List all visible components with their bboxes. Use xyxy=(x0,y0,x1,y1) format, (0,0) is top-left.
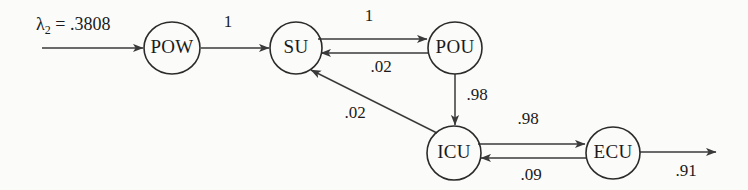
node-icu[interactable]: ICU xyxy=(427,126,481,180)
edge-label-ecu-to-icu: .09 xyxy=(520,165,541,184)
edge-icu-to-su xyxy=(311,70,437,133)
node-icu-label: ICU xyxy=(437,141,471,162)
edge-label-pow-to-su: 1 xyxy=(224,12,233,31)
node-ecu-label: ECU xyxy=(594,141,633,162)
node-pou[interactable]: POU xyxy=(428,22,482,74)
edge-label-icu-to-su: .02 xyxy=(344,103,365,122)
svg-text:λ2 = .3808: λ2 = .3808 xyxy=(36,14,110,37)
edge-label-pou-to-icu: .98 xyxy=(466,85,487,104)
lambda-symbol: λ xyxy=(36,14,45,34)
node-pow-label: POW xyxy=(150,36,193,57)
node-ecu[interactable]: ECU xyxy=(586,127,640,179)
node-su[interactable]: SU xyxy=(270,22,322,74)
node-su-label: SU xyxy=(284,36,309,57)
node-pow[interactable]: POW xyxy=(144,22,200,74)
edge-label-ecu-exit: .91 xyxy=(675,161,696,180)
source-rate-annotation: λ2 = .3808 xyxy=(36,14,110,37)
edge-label-pou-to-su: .02 xyxy=(370,57,391,76)
edge-label-su-to-pou: 1 xyxy=(365,6,374,25)
node-pou-label: POU xyxy=(436,36,475,57)
edge-label-icu-to-ecu: .98 xyxy=(517,109,538,128)
state-transition-diagram: POW SU POU ICU ECU 1 1 .02 .98 .02 .98 .… xyxy=(0,0,748,190)
lambda-value: .3808 xyxy=(70,14,111,34)
diagram-canvas: POW SU POU ICU ECU 1 1 .02 .98 .02 .98 .… xyxy=(0,0,748,190)
lambda-equals: = xyxy=(51,14,70,34)
